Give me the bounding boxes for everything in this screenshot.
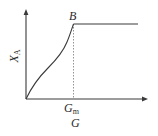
x-axis-label: G [71,117,80,129]
y-axis-label: XA [8,46,20,66]
x-tick-main: G [64,101,73,115]
y-axis-main: X [7,55,21,62]
x-tick-sub: m [73,107,79,116]
diagram-figure: B Gm G XA [0,0,158,136]
x-axis-arrow-icon [142,97,148,102]
x-axis-text: G [71,116,80,130]
rising-curve [26,24,74,99]
y-axis-sub: A [13,49,22,55]
y-axis-arrow-icon [24,9,29,15]
x-tick-gm-label: Gm [64,102,79,114]
point-b-label: B [69,10,76,22]
point-b-text: B [69,9,76,23]
